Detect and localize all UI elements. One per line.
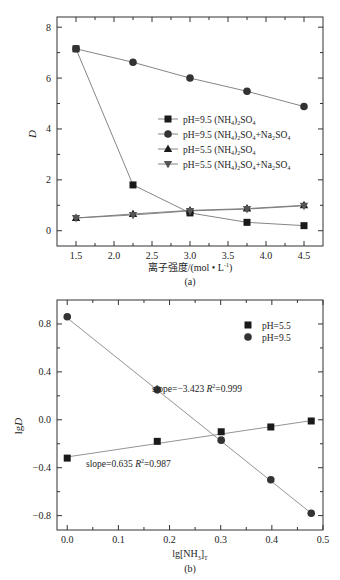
annotation-fit-ph95: slope=−3.423 R2=0.999 — [152, 383, 242, 394]
x-tick-label: 0.4 — [266, 534, 279, 545]
x-tick-label: 2.5 — [146, 250, 159, 261]
x-axis-label-b: lg[NH3]T — [172, 548, 208, 561]
fit-line — [67, 421, 311, 457]
y-tick-label: 0.0 — [39, 414, 52, 425]
legend-marker-triangle-up — [164, 145, 172, 153]
legend-item: pH=5.5 (NH4)2SO4 — [158, 145, 255, 157]
legend-item: pH=5.5 (NH4)2SO4+Na₂SO₄ — [158, 160, 291, 172]
y-tick-label: 8 — [46, 22, 51, 33]
annotation-fit-ph55: slope=0.635 R2=0.987 — [86, 458, 171, 469]
data-point-circle — [72, 45, 80, 53]
data-point-square — [64, 455, 71, 462]
y-axis-label-b: lgD — [12, 418, 24, 435]
data-point-circle — [267, 476, 275, 484]
legend-item: pH=5.5 — [245, 321, 292, 331]
chart-a: 1.52.02.53.03.54.04.5 02468 pH=9.5 (NH4)… — [26, 17, 323, 288]
data-point-square — [267, 423, 274, 430]
data-point-circle — [217, 436, 225, 444]
data-point-circle — [63, 313, 71, 321]
data-point-square — [218, 428, 225, 435]
figure-canvas: 1.52.02.53.03.54.04.5 02468 pH=9.5 (NH4)… — [0, 0, 340, 580]
chart-b: 0.00.10.20.30.40.5 −0.8−0.40.00.40.8 pH=… — [12, 300, 329, 575]
data-point-circle — [307, 509, 315, 517]
y-tick-label: 0.4 — [39, 366, 52, 377]
legend-item: pH=9.5 (NH4)2SO4 — [158, 115, 255, 127]
y-axis-label-a: D — [26, 130, 38, 139]
legend-marker-square — [165, 116, 172, 123]
legend-label: pH=9.5 — [262, 333, 291, 343]
x-tick-label: 0.3 — [214, 534, 227, 545]
legend-item: pH=9.5 — [244, 333, 291, 343]
y-tick-label: −0.8 — [33, 510, 51, 521]
y-tick-label: 0.8 — [39, 318, 52, 329]
legend-label: pH=5.5 (NH4)2SO4 — [183, 145, 255, 157]
legend-label: pH=9.5 (NH4)2SO4+Na₂SO₄ — [183, 130, 291, 142]
panel-label-a: (a) — [184, 276, 195, 288]
legend-marker-square — [245, 322, 252, 329]
legend-b: pH=5.5pH=9.5 — [244, 321, 291, 343]
y-tick-label: −0.4 — [33, 462, 51, 473]
y-tick-label: 4 — [46, 123, 51, 134]
y-tick-label: 2 — [46, 174, 51, 185]
x-tick-label: 0.5 — [317, 534, 330, 545]
data-point-square — [130, 181, 137, 188]
y-tick-label: 6 — [46, 73, 51, 84]
x-tick-label: 0.0 — [61, 534, 74, 545]
legend-marker-circle — [164, 130, 172, 138]
data-point-square — [301, 222, 308, 229]
data-point-square — [308, 417, 315, 424]
data-point-circle — [129, 58, 137, 66]
data-point-circle — [300, 103, 308, 111]
legend-marker-circle — [244, 333, 252, 341]
legend-label: pH=5.5 — [262, 321, 291, 331]
x-tick-label: 4.0 — [260, 250, 273, 261]
x-tick-label: 3.0 — [184, 250, 197, 261]
x-tick-label: 4.5 — [298, 250, 311, 261]
legend-a: pH=9.5 (NH4)2SO4pH=9.5 (NH4)2SO4+Na₂SO₄p… — [158, 115, 291, 172]
x-tick-label: 1.5 — [70, 250, 83, 261]
x-tick-label: 2.0 — [108, 250, 121, 261]
data-point-square — [154, 438, 161, 445]
fit-lines-b — [67, 318, 311, 513]
x-tick-label: 3.5 — [222, 250, 235, 261]
y-axis-b: −0.8−0.40.00.40.8 — [33, 318, 323, 521]
legend-marker-triangle-down — [164, 161, 172, 169]
legend-item: pH=9.5 (NH4)2SO4+Na₂SO₄ — [158, 130, 291, 142]
x-tick-label: 0.1 — [112, 534, 125, 545]
data-point-square — [244, 219, 251, 226]
legend-label: pH=9.5 (NH4)2SO4 — [183, 115, 255, 127]
x-axis-label-a: 离子强度/(mol • L-1) — [148, 261, 233, 274]
figure: 1.52.02.53.03.54.04.5 02468 pH=9.5 (NH4)… — [0, 0, 340, 580]
x-tick-label: 0.2 — [163, 534, 176, 545]
y-tick-label: 0 — [46, 225, 51, 236]
legend-label: pH=5.5 (NH4)2SO4+Na₂SO₄ — [183, 160, 291, 172]
data-point-circle — [243, 87, 251, 95]
panel-label-b: (b) — [184, 563, 196, 575]
data-point-circle — [186, 74, 194, 82]
fit-line — [67, 318, 311, 513]
